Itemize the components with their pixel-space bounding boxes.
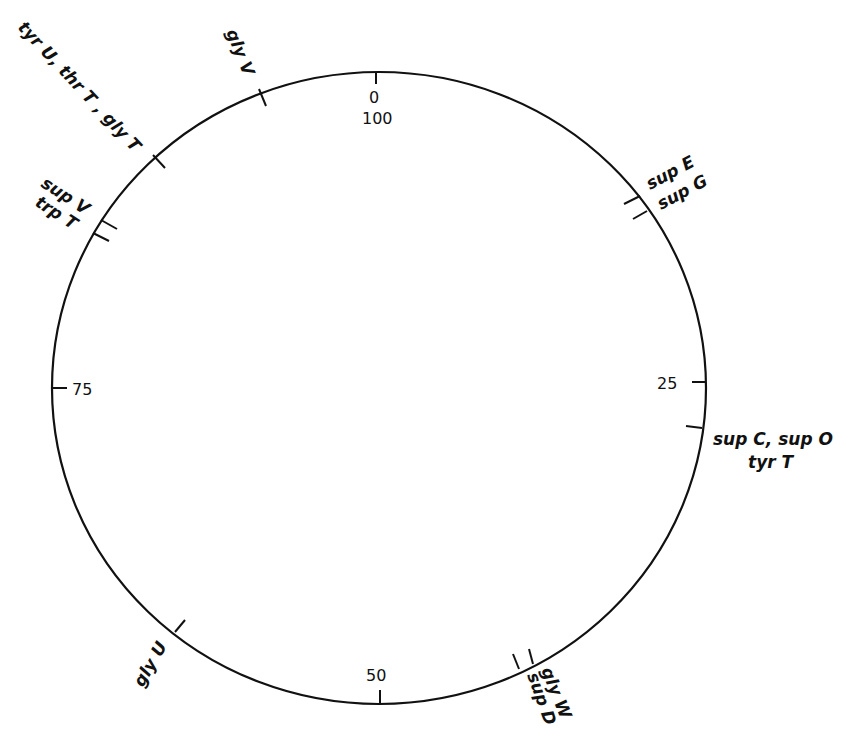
locus-label-glyV: gly V <box>222 26 259 80</box>
genetic-map: 0 100 25 50 75 gly V tyr U, thr T , gly … <box>0 0 866 754</box>
locus-label-supC-supO: sup C, sup O <box>713 429 833 449</box>
scale-label-100: 100 <box>362 109 393 128</box>
scale-label-75: 75 <box>72 380 92 399</box>
tick-supE <box>624 196 640 204</box>
tick-glyU <box>175 620 185 632</box>
locus-label-tyrU-thrT-glyT: tyr U, thr T , gly T <box>14 17 146 157</box>
chromosome-circle <box>52 72 706 704</box>
tick-glyT <box>153 155 165 168</box>
tick-supG <box>633 211 647 219</box>
scale-label-25: 25 <box>657 374 677 393</box>
tick-supC <box>686 426 702 428</box>
tick-supV <box>101 220 117 229</box>
scale-label-0: 0 <box>369 88 379 107</box>
tick-supD <box>513 654 519 669</box>
locus-label-tyrT: tyr T <box>748 452 795 472</box>
locus-label-glyU: gly U <box>129 638 171 690</box>
tick-glyW <box>529 649 533 664</box>
tick-trpT <box>93 233 109 241</box>
scale-label-50: 50 <box>366 666 386 685</box>
